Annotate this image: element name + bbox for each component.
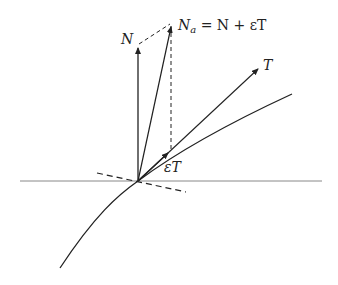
- dashed-line-origin: [97, 173, 186, 192]
- label-Na: Na = N + εT: [177, 17, 267, 35]
- label-N: N: [120, 31, 134, 47]
- label-T: T: [263, 57, 274, 73]
- label-epsT: εT: [164, 159, 183, 175]
- vector-Na: [138, 27, 171, 181]
- diagram-canvas: N Na = N + εT T εT: [0, 0, 338, 285]
- dashed-N-to-Na: [139, 24, 170, 44]
